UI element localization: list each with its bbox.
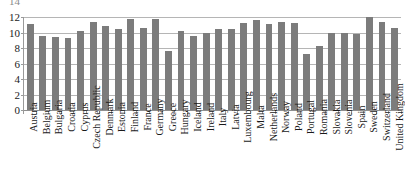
bar-cell (74, 17, 87, 110)
x-label-cell: Greece (162, 115, 175, 189)
x-label-cell: Switzerland (376, 115, 389, 189)
x-label-cell: Slovakia (325, 115, 338, 189)
bar-denmark (102, 26, 109, 110)
x-label-cell: Croatia (61, 115, 74, 189)
bar-cell (62, 17, 75, 110)
x-label-cell: Latvia (225, 115, 238, 189)
x-label-cell: Spain (350, 115, 363, 189)
x-label-cell: Romania (313, 115, 326, 189)
bar-finland (127, 19, 134, 110)
bar-cell (175, 17, 188, 110)
bar-cell (162, 17, 175, 110)
bar-cell (212, 17, 225, 110)
x-axis-labels: AustriaBelgiumBulgariaCroatiaCyprusCzech… (23, 115, 401, 189)
x-label-cell: Bulgaria (48, 115, 61, 189)
y-tick-label-clipped: 14 (9, 0, 20, 7)
y-tick-mark-2 (21, 95, 24, 96)
bar-cell (49, 17, 62, 110)
x-label-cell: Poland (287, 115, 300, 189)
bar-croatia (65, 38, 72, 110)
bar-hungary (178, 31, 185, 110)
bar-france (140, 28, 147, 110)
bar-austria (27, 24, 34, 110)
bar-cell (150, 17, 163, 110)
bar-cell (288, 17, 301, 110)
x-label-cell: Luxembourg (237, 115, 250, 189)
bar-germany (152, 19, 159, 110)
x-label-cell: Norway (275, 115, 288, 189)
bar-greece (165, 51, 172, 110)
x-label-cell: Ireland (199, 115, 212, 189)
x-label-cell: Finland (124, 115, 137, 189)
y-axis-labels: 02468101214 (0, 0, 22, 189)
y-tick-mark-10 (21, 33, 24, 34)
x-label-cell: Hungary (174, 115, 187, 189)
bar-slovenia (341, 33, 348, 110)
bar-estonia (115, 29, 122, 110)
x-label-cell: Estonia (111, 115, 124, 189)
bar-cell (24, 17, 37, 110)
y-tick-label-2: 2 (15, 89, 21, 100)
bar-latvia (228, 29, 235, 110)
bar-spain (353, 34, 360, 110)
y-tick-mark-6 (21, 64, 24, 65)
bar-cell (300, 17, 313, 110)
bar-cell (313, 17, 326, 110)
bar-cell (137, 17, 150, 110)
x-label-cell: Iceland (187, 115, 200, 189)
y-tick-label-8: 8 (15, 43, 21, 54)
bar-cell (326, 17, 339, 110)
x-label-cell: Netherlands (262, 115, 275, 189)
bar-cyprus (77, 31, 84, 110)
x-label-cell: Cyprus (73, 115, 86, 189)
bar-cell (125, 17, 138, 110)
x-label-cell: Malta (250, 115, 263, 189)
x-label-cell: Czech Republic (86, 115, 99, 189)
x-label-cell: Italy (212, 115, 225, 189)
y-tick-label-12: 12 (9, 12, 20, 23)
bar-cell (351, 17, 364, 110)
x-label-cell: Denmark (99, 115, 112, 189)
bar-series (24, 17, 401, 110)
y-tick-mark-8 (21, 48, 24, 49)
x-tick-label-united-kingdom: United Kingdom (395, 83, 405, 151)
y-tick-label-10: 10 (9, 27, 20, 38)
bar-iceland (190, 36, 197, 110)
y-tick-mark-4 (21, 79, 24, 80)
y-tick-label-0: 0 (15, 105, 21, 116)
bar-cell (112, 17, 125, 110)
bar-cell (37, 17, 50, 110)
bar-slovakia (328, 33, 335, 111)
plot-area (23, 17, 401, 110)
x-label-cell: France (136, 115, 149, 189)
bar-cell (200, 17, 213, 110)
y-tick-label-4: 4 (15, 74, 21, 85)
x-label-cell: Sweden (363, 115, 376, 189)
bar-sweden (366, 17, 373, 110)
bar-cell (338, 17, 351, 110)
x-label-cell: Portugal (300, 115, 313, 189)
bar-malta (253, 20, 260, 110)
x-label-cell: United Kingdom (388, 115, 401, 189)
y-tick-mark-12 (21, 17, 24, 18)
x-label-cell: Germany (149, 115, 162, 189)
x-label-cell: Belgium (36, 115, 49, 189)
bar-cell (363, 17, 376, 110)
x-label-cell: Austria (23, 115, 36, 189)
x-label-cell: Slovenia (338, 115, 351, 189)
bar-cell (187, 17, 200, 110)
bar-norway (278, 22, 285, 110)
bar-cell (225, 17, 238, 110)
bar-poland (291, 23, 298, 110)
bar-ireland (203, 33, 210, 111)
y-tick-label-6: 6 (15, 58, 21, 69)
bar-italy (215, 29, 222, 110)
x-tick-mark (23, 110, 24, 114)
